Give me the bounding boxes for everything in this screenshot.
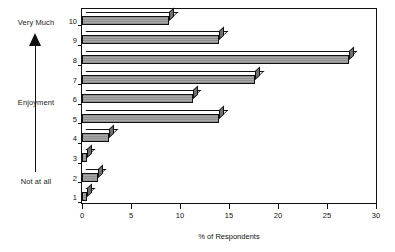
y-axis-tick: [78, 143, 82, 144]
enjoyment-scale-annotation: Very Much Enjoyment Not at all: [0, 0, 72, 210]
bar-category-3: [82, 149, 91, 163]
x-axis-label-0: 0: [80, 211, 84, 220]
x-axis-label-5: 5: [129, 211, 133, 220]
bar-front-face: [82, 75, 255, 84]
bar-side-face: [219, 106, 224, 119]
bar-front-face: [82, 55, 349, 64]
bar-side-face: [169, 8, 174, 21]
bar-side-face: [98, 165, 103, 178]
y-axis-tick: [78, 123, 82, 124]
y-axis-tick: [78, 25, 82, 26]
bar-category-10: [82, 12, 174, 26]
bar-category-7: [82, 71, 260, 85]
scale-axis-title: Enjoyment: [0, 98, 72, 107]
x-axis-title: % of Respondents: [81, 232, 377, 241]
bar-side-face: [219, 27, 224, 40]
y-axis-label-8: 8: [73, 56, 77, 65]
bar-side-face: [349, 47, 354, 60]
y-axis-tick: [78, 45, 82, 46]
bar-front-face: [82, 94, 193, 103]
bar-side-face: [87, 145, 92, 158]
y-axis-label-9: 9: [73, 36, 77, 45]
x-axis-label-10: 10: [176, 211, 184, 220]
bar-front-face: [82, 16, 169, 25]
bar-category-8: [82, 51, 353, 65]
y-axis-label-4: 4: [73, 134, 77, 143]
y-axis-label-7: 7: [73, 75, 77, 84]
bar-side-face: [109, 125, 114, 138]
scale-top-label: Very Much: [0, 18, 72, 27]
bar-side-face: [87, 184, 92, 197]
y-axis-tick: [78, 65, 82, 66]
x-axis-tick: [131, 204, 132, 209]
x-axis-tick: [376, 204, 377, 209]
bar-front-face: [82, 173, 98, 182]
y-axis-label-1: 1: [73, 193, 77, 202]
y-axis-label-10: 10: [69, 16, 77, 25]
bar-category-1: [82, 188, 91, 202]
bar-front-face: [82, 192, 87, 201]
y-axis-label-3: 3: [73, 154, 77, 163]
y-axis-tick: [78, 163, 82, 164]
x-axis-tick: [327, 204, 328, 209]
x-axis-tick: [82, 204, 83, 209]
x-axis-label-25: 25: [323, 211, 331, 220]
bar-category-6: [82, 90, 197, 104]
bar-category-2: [82, 169, 102, 183]
bar-front-face: [82, 114, 219, 123]
x-axis-tick: [278, 204, 279, 209]
bar-category-5: [82, 110, 224, 124]
x-axis-label-20: 20: [274, 211, 282, 220]
bar-front-face: [82, 35, 219, 44]
arrow-shaft: [35, 42, 36, 172]
y-axis-tick: [78, 202, 82, 203]
bar-front-face: [82, 133, 109, 142]
bar-category-9: [82, 31, 224, 45]
bar-side-face: [193, 86, 198, 99]
bar-front-face: [82, 153, 87, 162]
x-axis-label-15: 15: [225, 211, 233, 220]
y-axis-tick: [78, 104, 82, 105]
scale-bottom-label: Not at all: [0, 177, 72, 186]
x-axis-tick: [229, 204, 230, 209]
y-axis-tick: [78, 84, 82, 85]
y-axis-tick: [78, 182, 82, 183]
x-axis-ticks: [81, 204, 377, 210]
y-axis-label-6: 6: [73, 95, 77, 104]
y-axis-label-5: 5: [73, 114, 77, 123]
x-axis-tick: [180, 204, 181, 209]
chart-screenshot: Very Much Enjoyment Not at all 123456789…: [0, 0, 395, 252]
bar-category-4: [82, 129, 114, 143]
bar-side-face: [255, 67, 260, 80]
y-axis-label-2: 2: [73, 173, 77, 182]
plot-area: 12345678910: [81, 8, 377, 204]
x-axis-label-30: 30: [372, 211, 380, 220]
x-axis-tick-labels: 051015202530: [81, 211, 377, 223]
